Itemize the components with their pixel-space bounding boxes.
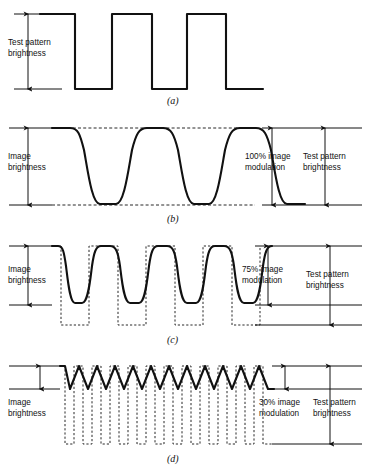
modulation-figure: Test pattern brightness (a) Image bright… <box>0 0 370 470</box>
panel-b-left-label-line2: brightness <box>8 163 46 172</box>
panel-c-left-label-line2: brightness <box>8 276 46 285</box>
panel-a-left-label-line1: Test pattern <box>8 38 51 47</box>
panel-c-right-label-2-line1: Test pattern <box>306 270 349 279</box>
panel-c-right-label-2-line2: brightness <box>306 281 344 290</box>
panel-d-caption: (d) <box>167 453 179 465</box>
panel-b: Image brightness 100% image modulation T… <box>8 128 362 225</box>
panel-c-waveform <box>52 246 272 303</box>
panel-c-right-label-1-line2: modulation <box>242 276 283 285</box>
panel-b-right-label-1-line1: 100% image <box>245 152 291 161</box>
panel-a-waveform <box>40 14 263 89</box>
panel-d: Image brightness 30% image modulation Te… <box>8 366 362 465</box>
panel-b-right-label-1-line2: modulation <box>245 163 286 172</box>
panel-a-caption: (a) <box>167 95 179 107</box>
panel-d-right-label-2-line1: Test pattern <box>313 398 356 407</box>
panel-b-right-label-2-line2: brightness <box>303 163 341 172</box>
panel-d-left-label-line2: brightness <box>8 409 46 418</box>
panel-c-right-label-1-line1: 75% image <box>242 265 283 274</box>
panel-b-caption: (b) <box>167 213 179 225</box>
panel-d-right-label-2-line2: brightness <box>313 409 351 418</box>
panel-c-caption: (c) <box>167 334 179 346</box>
panel-d-right-label-1-line1: 30% image <box>259 398 300 407</box>
panel-b-right-label-2-line1: Test pattern <box>303 152 346 161</box>
panel-b-left-label-line1: Image <box>8 152 31 161</box>
panel-d-left-label-line1: Image <box>8 398 31 407</box>
panel-d-right-label-1-line2: modulation <box>259 409 300 418</box>
panel-c-left-label-line1: Image <box>8 265 31 274</box>
panel-c: Image brightness 75% image modulation Te… <box>8 246 362 346</box>
panel-a: Test pattern brightness (a) <box>8 14 263 107</box>
panel-c-dashed-test-pattern <box>52 246 260 325</box>
panel-a-left-label-line2: brightness <box>8 49 46 58</box>
